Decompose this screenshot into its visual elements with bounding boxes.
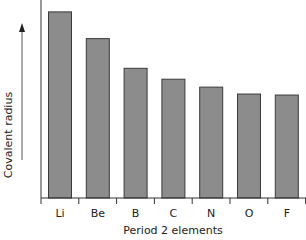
bars-group xyxy=(49,12,299,198)
y-axis-arrow-icon xyxy=(19,23,25,160)
x-axis-title: Period 2 elements xyxy=(123,224,223,237)
bar-n xyxy=(200,87,223,198)
bar-c xyxy=(162,79,185,198)
y-axis-title: Covalent radius xyxy=(2,92,15,179)
bar-f xyxy=(275,95,298,198)
x-tick-label-li: Li xyxy=(55,207,64,220)
bar-be xyxy=(86,39,109,198)
x-tick-label-b: B xyxy=(132,207,140,220)
bar-b xyxy=(124,68,147,198)
x-tick-label-f: F xyxy=(284,207,290,220)
x-ticks-group xyxy=(41,198,306,204)
bar-li xyxy=(49,12,72,198)
x-tick-label-c: C xyxy=(170,207,178,220)
x-tick-labels-group: LiBeBCNOF xyxy=(55,207,290,220)
bar-chart: LiBeBCNOF Covalent radius Period 2 eleme… xyxy=(0,0,306,240)
bar-o xyxy=(238,94,261,198)
x-tick-label-o: O xyxy=(245,207,254,220)
x-tick-label-n: N xyxy=(207,207,215,220)
x-tick-label-be: Be xyxy=(91,207,106,220)
